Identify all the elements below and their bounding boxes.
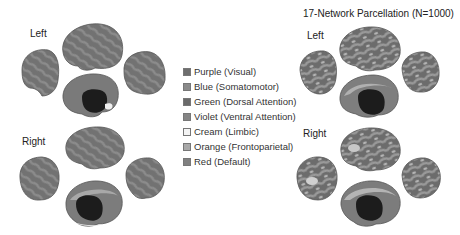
brain-lateral-view [63, 24, 123, 70]
legend-label: Orange (Frontoparietal) [194, 141, 293, 152]
brain-posterior-view [22, 50, 59, 96]
medial-wall [82, 89, 107, 112]
swatch-purple [183, 68, 191, 76]
legend-item-somatomotor: Blue (Somatomotor) [183, 79, 296, 94]
legend-label: Violet (Ventral Attention) [194, 111, 296, 122]
swatch-cream [183, 128, 191, 136]
legend-label: Purple (Visual) [194, 66, 256, 77]
right-panel-right-label: Right [303, 128, 326, 139]
brain-lateral-view [66, 127, 124, 169]
brain-posterior-view [20, 157, 59, 200]
brain-lateral-view [340, 27, 400, 71]
legend-item-frontoparietal: Orange (Frontoparietal) [183, 139, 296, 154]
right-panel-title: 17-Network Parcellation (N=1000) [303, 8, 454, 19]
legend-item-ventral-attention: Violet (Ventral Attention) [183, 109, 296, 124]
swatch-blue [183, 83, 191, 91]
brain-anterior-view [126, 158, 164, 199]
left-panel-left-label: Left [30, 28, 47, 39]
legend-item-visual: Purple (Visual) [183, 64, 296, 79]
brain-posterior-view [297, 157, 337, 200]
swatch-green [183, 98, 191, 106]
left-panel-right-label: Right [22, 136, 45, 147]
swatch-red [183, 158, 191, 166]
brain-anterior-view [124, 52, 165, 95]
legend-label: Red (Default) [194, 156, 251, 167]
legend-item-dorsal-attention: Green (Dorsal Attention) [183, 94, 296, 109]
brain-anterior-view [402, 158, 440, 198]
legend-item-default: Red (Default) [183, 154, 296, 169]
right-panel-left-label: Left [307, 30, 324, 41]
legend-label: Blue (Somatomotor) [194, 81, 279, 92]
right-panel-right-hemisphere [297, 128, 440, 226]
brain-posterior-view [300, 51, 337, 94]
swatch-orange [183, 143, 191, 151]
legend-label: Cream (Limbic) [194, 126, 259, 137]
legend-label: Green (Dorsal Attention) [194, 96, 296, 107]
swatch-violet [183, 113, 191, 121]
brain-anterior-view [402, 52, 439, 92]
legend-item-limbic: Cream (Limbic) [183, 124, 296, 139]
network-legend: Purple (Visual) Blue (Somatomotor) Green… [183, 64, 296, 169]
